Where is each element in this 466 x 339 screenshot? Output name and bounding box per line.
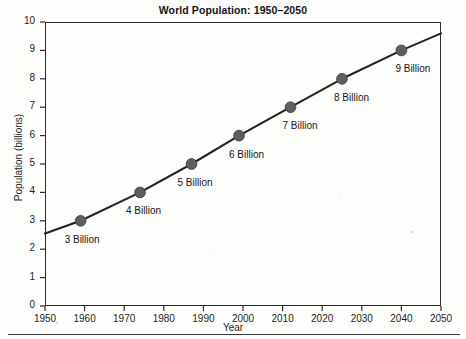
x-axis-title: Year [0,322,466,333]
point-label-3-billion: 3 Billion [65,234,100,245]
y-tick-1: 1 [7,271,35,282]
plot-area [45,22,441,306]
chart-figure: World Population: 1950–2050 012345678910… [0,0,466,339]
point-label-5-billion: 5 Billion [178,177,213,188]
point-label-7-billion: 7 Billion [283,120,318,131]
page-divider-rule [8,334,460,335]
y-tick-2: 2 [7,242,35,253]
scan-speck [339,196,340,197]
y-tick-9: 9 [7,43,35,54]
point-label-4-billion: 4 Billion [126,205,161,216]
point-label-6-billion: 6 Billion [229,149,264,160]
point-label-8-billion: 8 Billion [334,92,369,103]
scan-speck [411,231,413,233]
scan-speck [214,250,215,251]
chart-title: World Population: 1950–2050 [0,4,466,16]
y-axis-title: Population (billions) [13,93,24,223]
y-tick-0: 0 [7,299,35,310]
point-label-9-billion: 9 Billion [395,63,430,74]
scan-speck [56,322,58,324]
y-tick-8: 8 [7,72,35,83]
y-tick-10: 10 [7,15,35,26]
